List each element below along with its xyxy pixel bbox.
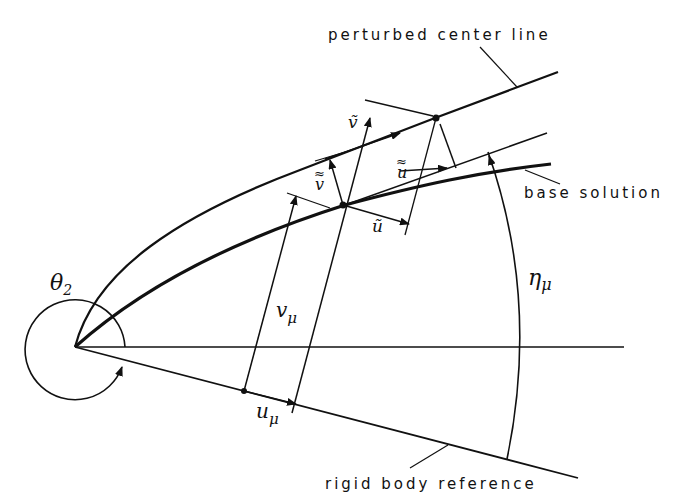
u-tilde-label: ũ	[372, 216, 383, 236]
perturbed-leader	[480, 47, 517, 87]
base-solution-label: base solution	[524, 184, 663, 202]
diagram-canvas: perturbed center line base solution rigi…	[0, 0, 679, 502]
base-solution-leader	[525, 170, 560, 184]
perturbed-normal	[440, 124, 456, 168]
perturbed-center-line-label: perturbed center line	[328, 26, 551, 44]
v-tilde-tick	[365, 100, 433, 116]
v-dtilde-label: ≈v	[314, 166, 325, 194]
perturbed-center-line	[75, 72, 558, 347]
u-dtilde-line	[325, 133, 400, 159]
v-mu-line	[244, 196, 296, 391]
eta-mu-label: ημ	[528, 265, 552, 294]
rigid-body-leader	[410, 445, 448, 468]
eta-arc	[488, 152, 520, 459]
u-mu-arrow	[244, 391, 296, 404]
u-tilde-tick	[405, 118, 436, 235]
v-dtilde-arrow	[330, 160, 343, 205]
u-mu-label: uμ	[256, 399, 279, 428]
theta2-arc	[25, 300, 125, 400]
v-tilde-label: ṽ	[348, 112, 358, 132]
rigid-body-reference-line	[75, 347, 578, 478]
u-dtilde-label: ≈u	[396, 154, 407, 182]
perturbed-point	[433, 115, 440, 122]
v-mu-label: vμ	[276, 298, 297, 327]
base-solution-curve	[75, 164, 551, 347]
rigid-body-reference-label: rigid body reference	[325, 475, 537, 493]
rigid-point	[241, 388, 247, 394]
theta2-label: θ2	[50, 270, 72, 298]
